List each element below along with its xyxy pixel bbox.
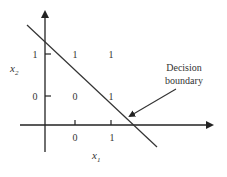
x-tick-label-1: 1 xyxy=(110,132,115,143)
annotation-line-1: Decision xyxy=(166,62,202,73)
y-axis-label: x2 xyxy=(9,62,19,77)
decision-boundary-line xyxy=(27,25,157,147)
annotation-line-2: boundary xyxy=(165,75,203,86)
x-tick-label-0: 0 xyxy=(73,132,78,143)
point-label-0-0: 0 xyxy=(73,91,78,102)
point-label-1-1: 1 xyxy=(109,49,114,60)
y-tick-label-0: 0 xyxy=(33,91,38,102)
annotation-arrow xyxy=(130,89,176,116)
decision-boundary-diagram: 1 0 0 1 1 1 0 1 x2 x1 Decision boundary xyxy=(0,0,227,177)
x-axis-label: x1 xyxy=(91,149,100,164)
y-tick-label-1: 1 xyxy=(33,49,38,60)
point-label-1-0: 1 xyxy=(109,91,114,102)
point-label-0-1: 1 xyxy=(73,49,78,60)
